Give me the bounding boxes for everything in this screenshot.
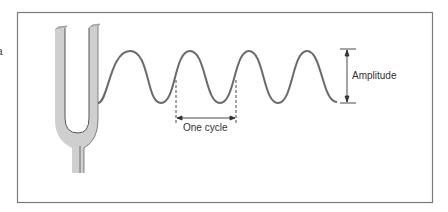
diagram-canvas: a [0, 0, 448, 212]
tuning-fork-icon [55, 24, 100, 173]
sound-wave [98, 51, 337, 103]
one-cycle-label: One cycle [183, 122, 227, 133]
diagram-svg [0, 0, 448, 212]
one-cycle-indicator [176, 80, 236, 125]
edge-text-fragment: a [0, 46, 3, 57]
amplitude-label: Amplitude [352, 70, 396, 81]
diagram-frame [18, 13, 433, 203]
